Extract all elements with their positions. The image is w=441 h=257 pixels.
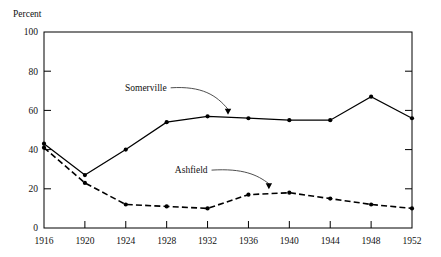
- data-point-ashfield-1920: [83, 181, 87, 185]
- y-axis-tick-labels: 020406080100: [24, 27, 39, 233]
- x-tick-label-1944: 1944: [321, 236, 340, 246]
- annotation-leader-ashfield: [212, 170, 269, 184]
- series-line-ashfield: [44, 148, 412, 209]
- data-point-ashfield-1940: [287, 191, 291, 195]
- series-line-somerville: [44, 97, 412, 175]
- x-tick-label-1932: 1932: [198, 236, 217, 246]
- annotation-label-somerville: Somerville: [125, 83, 167, 93]
- annotation-label-ashfield: Ashfield: [175, 165, 208, 175]
- data-point-somerville-1928: [165, 120, 169, 124]
- x-tick-label-1928: 1928: [157, 236, 176, 246]
- data-point-ashfield-1932: [205, 206, 209, 210]
- y-tick-label-0: 0: [33, 223, 38, 233]
- plot-frame: [44, 32, 412, 228]
- data-point-ashfield-1948: [369, 202, 373, 206]
- data-point-somerville-1936: [246, 116, 250, 120]
- chart-container: Percent 020406080100 1916192019241928193…: [0, 0, 441, 257]
- data-point-somerville-1924: [124, 148, 128, 152]
- annotation-leader-somerville: [171, 88, 228, 110]
- x-axis-ticks: [85, 221, 371, 228]
- x-tick-label-1952: 1952: [403, 236, 422, 246]
- y-tick-label-60: 60: [29, 106, 39, 116]
- data-point-somerville-1932: [205, 114, 209, 118]
- annotation-arrowhead-somerville: [225, 109, 231, 115]
- x-tick-label-1948: 1948: [362, 236, 381, 246]
- y-tick-label-40: 40: [29, 145, 39, 155]
- x-tick-label-1940: 1940: [280, 236, 299, 246]
- y-axis-title: Percent: [13, 9, 42, 19]
- y-axis-ticks: [44, 71, 412, 189]
- y-tick-label-100: 100: [24, 27, 39, 37]
- data-point-ashfield-1936: [246, 193, 250, 197]
- x-tick-label-1920: 1920: [75, 236, 94, 246]
- data-point-ashfield-1944: [328, 197, 332, 201]
- data-point-ashfield-1924: [124, 202, 128, 206]
- data-point-somerville-1940: [287, 118, 291, 122]
- y-tick-label-20: 20: [29, 184, 39, 194]
- x-tick-label-1936: 1936: [239, 236, 258, 246]
- percent-line-chart: Percent 020406080100 1916192019241928193…: [0, 0, 441, 257]
- x-tick-label-1916: 1916: [35, 236, 54, 246]
- data-point-ashfield-1916: [42, 146, 46, 150]
- data-point-somerville-1920: [83, 173, 87, 177]
- data-point-somerville-1944: [328, 118, 332, 122]
- data-point-somerville-1952: [410, 116, 414, 120]
- x-axis-tick-labels: 1916192019241928193219361940194419481952: [35, 236, 422, 246]
- data-point-somerville-1916: [42, 142, 46, 146]
- data-point-ashfield-1952: [410, 206, 414, 210]
- annotation-arrowhead-ashfield: [266, 183, 272, 189]
- data-point-ashfield-1928: [165, 204, 169, 208]
- data-point-somerville-1948: [369, 95, 373, 99]
- x-tick-label-1924: 1924: [116, 236, 135, 246]
- y-tick-label-80: 80: [29, 67, 39, 77]
